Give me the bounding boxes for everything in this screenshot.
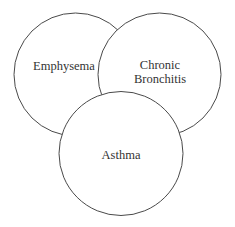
label-asthma: Asthma — [102, 148, 141, 162]
label-bronchitis: Bronchitis — [134, 72, 186, 86]
venn-diagram: Emphysema Chronic Bronchitis Asthma — [0, 0, 235, 227]
label-emphysema: Emphysema — [33, 59, 95, 73]
label-chronic: Chronic — [140, 58, 181, 72]
venn-diagram-canvas: Emphysema Chronic Bronchitis Asthma — [0, 0, 235, 227]
